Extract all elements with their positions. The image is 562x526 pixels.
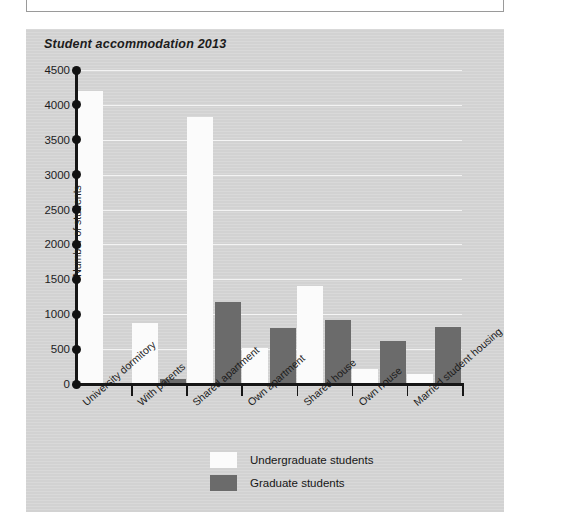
y-axis-tick-dot	[72, 380, 81, 389]
y-axis-tick-label: 2000	[44, 238, 70, 250]
chart-figure-panel: Student accommodation 2013 0500100015002…	[26, 29, 504, 512]
y-axis-tick-dot	[72, 345, 81, 354]
legend-swatch-graduate	[210, 475, 237, 491]
y-axis-tick-label: 0	[64, 378, 70, 390]
y-axis-tick-label: 3500	[44, 134, 70, 146]
legend-swatch-undergraduate	[210, 452, 237, 468]
y-axis-title: Number of students	[71, 171, 83, 291]
x-axis-separator	[186, 385, 188, 396]
y-axis-tick-dot	[72, 240, 81, 249]
gridline	[76, 140, 462, 141]
gridline	[76, 210, 462, 211]
x-axis-separator	[462, 385, 464, 396]
legend-item: Graduate students	[210, 475, 373, 491]
y-axis-tick-label: 1500	[44, 273, 70, 285]
gridline	[76, 70, 462, 71]
y-axis-tick-dot	[72, 275, 81, 284]
gridline	[76, 279, 462, 280]
plot-area	[76, 70, 462, 384]
y-axis-tick-label: 2500	[44, 204, 70, 216]
x-axis-separator	[297, 385, 299, 396]
y-axis-tick-label: 500	[51, 343, 70, 355]
gridline	[76, 244, 462, 245]
page-fragment-frame	[26, 0, 504, 12]
x-axis-separator	[352, 385, 354, 396]
legend-item-label: Graduate students	[250, 477, 345, 489]
y-axis-tick-dot	[72, 66, 81, 75]
y-axis-tick-dot	[72, 205, 81, 214]
y-axis-tick-dot	[72, 310, 81, 319]
y-axis-tick-label: 1000	[44, 308, 70, 320]
gridline	[76, 105, 462, 106]
y-axis-tick-label: 4500	[44, 64, 70, 76]
chart-title: Student accommodation 2013	[44, 37, 226, 51]
gridline	[76, 175, 462, 176]
x-axis-separator	[131, 385, 133, 396]
legend-item: Undergraduate students	[210, 452, 373, 468]
gridline	[76, 314, 462, 315]
x-axis-separator	[407, 385, 409, 396]
legend-item-label: Undergraduate students	[250, 454, 373, 466]
x-axis-separator	[241, 385, 243, 396]
y-axis-tick-label: 4000	[44, 99, 70, 111]
y-axis-tick-label: 3000	[44, 169, 70, 181]
bar-undergraduate	[187, 117, 213, 384]
bar-undergraduate	[297, 286, 323, 384]
y-axis-ticks: 050010001500200025003000350040004500	[26, 29, 70, 512]
chart-legend: Undergraduate studentsGraduate students	[210, 452, 373, 498]
